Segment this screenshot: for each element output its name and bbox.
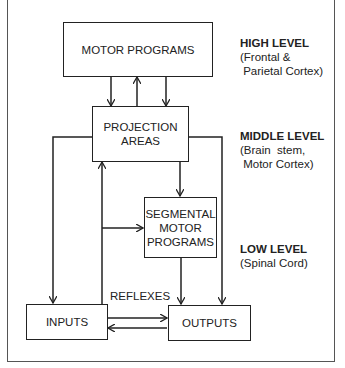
level-middle-line2: Motor Cortex): [240, 157, 324, 171]
segmental-label-2: MOTOR: [159, 221, 202, 235]
level-middle: MIDDLE LEVEL (Brain stem, Motor Cortex): [240, 129, 324, 171]
level-high-title: HIGH LEVEL: [240, 36, 323, 50]
projection-areas-box: PROJECTION AREAS: [92, 106, 189, 162]
segmental-motor-programs-box: SEGMENTAL MOTOR PROGRAMS: [144, 197, 217, 258]
projection-areas-label-1: PROJECTION: [103, 120, 177, 134]
level-low: LOW LEVEL (Spinal Cord): [240, 242, 308, 270]
outputs-label: OUTPUTS: [182, 316, 237, 330]
reflexes-label: REFLEXES: [110, 290, 170, 302]
outputs-box: OUTPUTS: [168, 305, 251, 341]
level-high: HIGH LEVEL (Frontal & Parietal Cortex): [240, 36, 323, 78]
level-high-line2: Parietal Cortex): [240, 64, 323, 78]
level-middle-title: MIDDLE LEVEL: [240, 129, 324, 143]
inputs-box: INPUTS: [26, 304, 108, 340]
motor-programs-box: MOTOR PROGRAMS: [63, 22, 213, 77]
level-low-title: LOW LEVEL: [240, 242, 308, 256]
level-middle-line1: (Brain stem,: [240, 143, 324, 157]
inputs-label: INPUTS: [46, 315, 88, 329]
level-low-line1: (Spinal Cord): [240, 256, 308, 270]
level-high-line1: (Frontal &: [240, 50, 323, 64]
segmental-label-3: PROGRAMS: [147, 235, 214, 249]
motor-programs-label: MOTOR PROGRAMS: [82, 43, 195, 57]
segmental-label-1: SEGMENTAL: [145, 207, 215, 221]
projection-areas-label-2: AREAS: [121, 134, 160, 148]
